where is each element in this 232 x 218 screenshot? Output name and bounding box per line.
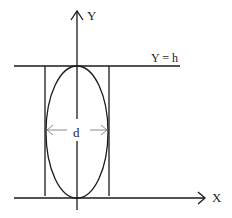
ellipse-diagram: Y Y = h X d: [0, 0, 232, 218]
top-line-label: Y = h: [151, 51, 178, 65]
x-axis-label: X: [212, 190, 222, 205]
y-axis-label: Y: [87, 8, 97, 23]
width-label: d: [73, 125, 80, 140]
